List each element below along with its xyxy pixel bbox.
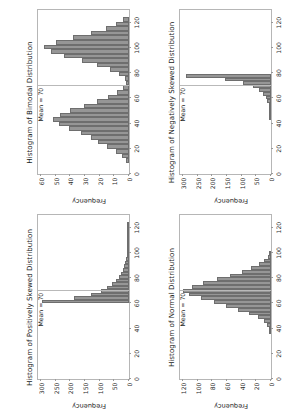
y-axis-tick bbox=[55, 379, 56, 381]
x-axis-tick bbox=[129, 173, 131, 174]
y-axis-tick bbox=[69, 379, 70, 381]
y-axis-tick-label: 50 bbox=[253, 178, 260, 186]
histogram-bar bbox=[123, 85, 129, 90]
plot-axes: Mean = 700204060801001200501001502002503… bbox=[37, 214, 130, 380]
histogram-bar bbox=[217, 277, 271, 281]
x-axis-tick-label: 120 bbox=[275, 17, 282, 29]
x-axis-tick-label: 40 bbox=[275, 325, 282, 333]
panel-title: Histogram of Negatively Skewed Distribut… bbox=[167, 0, 176, 205]
x-axis-tick-label: 100 bbox=[275, 247, 282, 259]
y-axis-tick-label: 40 bbox=[238, 383, 245, 391]
histogram-bar bbox=[53, 117, 129, 122]
y-axis-tick bbox=[182, 174, 183, 176]
x-axis-tick bbox=[271, 123, 273, 124]
histogram-bar bbox=[269, 113, 271, 117]
histogram-bar bbox=[249, 312, 271, 316]
x-axis-tick-label: 60 bbox=[133, 94, 140, 102]
y-axis-tick bbox=[113, 379, 114, 381]
histogram-bar bbox=[127, 254, 129, 258]
histogram-bar bbox=[267, 99, 271, 103]
x-axis-tick-label: 20 bbox=[133, 145, 140, 153]
y-axis-tick-label: 60 bbox=[223, 383, 230, 391]
histogram-bar bbox=[125, 76, 129, 81]
x-axis-tick bbox=[129, 227, 131, 228]
y-axis-tick-label: 20 bbox=[253, 383, 260, 391]
mean-line bbox=[38, 85, 129, 86]
x-axis-tick bbox=[271, 227, 273, 228]
histogram-bar bbox=[44, 45, 129, 50]
x-axis-tick-label: 120 bbox=[275, 222, 282, 234]
plot-axes: Mean = 700204060801001200501001502002503… bbox=[179, 9, 272, 175]
y-axis-tick-label: 250 bbox=[52, 383, 59, 395]
y-axis-tick bbox=[55, 174, 56, 176]
histogram-bar bbox=[97, 63, 129, 68]
y-axis-tick bbox=[40, 174, 41, 176]
histogram-bar bbox=[186, 74, 271, 78]
x-axis-tick-label: 120 bbox=[133, 222, 140, 234]
figure-rotator: Histogram of Positively Skewed Distribut… bbox=[18, 0, 284, 410]
histogram-figure: Histogram of Positively Skewed Distribut… bbox=[18, 0, 284, 410]
y-axis-tick bbox=[211, 379, 212, 381]
histogram-bar bbox=[116, 149, 129, 154]
histogram-bar bbox=[126, 257, 129, 261]
histogram-bar bbox=[269, 103, 271, 107]
x-axis-tick bbox=[129, 148, 131, 149]
histogram-bar bbox=[203, 281, 271, 285]
histogram-bar bbox=[84, 104, 130, 109]
histogram-bar bbox=[110, 67, 129, 72]
y-axis-tick-label: 100 bbox=[194, 383, 201, 395]
y-axis-tick bbox=[241, 379, 242, 381]
histogram-bar bbox=[124, 264, 129, 268]
histogram-bar bbox=[189, 293, 271, 297]
x-axis-tick bbox=[129, 353, 131, 354]
x-axis-tick bbox=[271, 97, 273, 98]
histogram-bar bbox=[126, 158, 129, 163]
mean-annotation: Mean = 70 bbox=[37, 86, 44, 122]
plot-area bbox=[180, 215, 271, 379]
y-axis-tick-label: 300 bbox=[179, 178, 186, 190]
histogram-bar bbox=[259, 262, 271, 266]
y-axis-tick-label: 150 bbox=[223, 178, 230, 190]
histogram-bar bbox=[264, 319, 271, 323]
y-axis-tick-label: 20 bbox=[96, 178, 103, 186]
histogram-bar bbox=[127, 236, 129, 240]
x-axis-tick-label: 60 bbox=[133, 299, 140, 307]
y-axis-tick bbox=[211, 174, 212, 176]
histogram-bar bbox=[116, 279, 129, 283]
x-axis-tick-label: 80 bbox=[275, 69, 282, 77]
mean-line bbox=[180, 290, 271, 291]
histogram-bar bbox=[116, 22, 129, 27]
histogram-bar bbox=[268, 255, 271, 259]
y-axis-tick-label: 50 bbox=[52, 178, 59, 186]
x-axis-tick-label: 60 bbox=[275, 299, 282, 307]
histogram-bar bbox=[119, 72, 129, 77]
x-axis-tick bbox=[271, 328, 273, 329]
mean-line bbox=[38, 290, 129, 291]
histogram-bar bbox=[258, 315, 271, 319]
y-axis-tick-label: 10 bbox=[111, 178, 118, 186]
x-axis-tick bbox=[271, 378, 273, 379]
histogram-bar bbox=[73, 36, 129, 41]
histogram-bar bbox=[201, 296, 271, 300]
y-axis-tick bbox=[182, 379, 183, 381]
y-axis-tick-label: 0 bbox=[268, 383, 275, 387]
histogram-bar bbox=[107, 286, 129, 290]
histogram-bar bbox=[267, 323, 271, 327]
panel-bimodal: Histogram of Bimodal Distribution Freque… bbox=[18, 0, 160, 205]
y-axis-tick bbox=[241, 174, 242, 176]
y-axis-tick-label: 100 bbox=[96, 383, 103, 395]
histogram-bar bbox=[226, 304, 272, 308]
x-axis-tick bbox=[129, 97, 131, 98]
panel-title: Histogram of Bimodal Distribution bbox=[25, 0, 34, 205]
histogram-bar bbox=[91, 31, 129, 36]
x-axis-tick bbox=[129, 47, 131, 48]
histogram-bar bbox=[125, 261, 129, 265]
y-axis-tick bbox=[270, 379, 271, 381]
x-axis-tick bbox=[129, 22, 131, 23]
histogram-bar bbox=[108, 95, 129, 100]
y-axis-tick bbox=[40, 379, 41, 381]
histogram-bar bbox=[122, 154, 129, 159]
panel-normal: Histogram of Normal Distribution Frequen… bbox=[160, 205, 284, 410]
x-axis-tick-label: 0 bbox=[275, 172, 282, 176]
y-axis-label: Frequency bbox=[72, 197, 106, 205]
